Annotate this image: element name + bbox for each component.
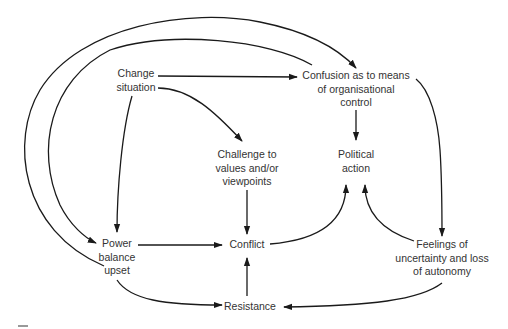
node-text: action bbox=[334, 162, 378, 176]
node-text: balance bbox=[97, 251, 137, 265]
node-political-action: Political action bbox=[334, 148, 378, 175]
edge-conflict-to-political bbox=[270, 185, 346, 244]
node-feelings: Feelings of uncertainty and loss of auto… bbox=[392, 238, 492, 279]
node-text: upset bbox=[97, 264, 137, 278]
node-text: Challenge to bbox=[212, 148, 282, 162]
node-conflict: Conflict bbox=[224, 238, 270, 252]
edge-confusion-to-feelings bbox=[416, 79, 442, 236]
node-confusion: Confusion as to means of organisational … bbox=[300, 69, 412, 110]
node-text: values and/or bbox=[212, 162, 282, 176]
node-text: uncertainty and loss bbox=[392, 252, 492, 266]
edge-power-to-resistance bbox=[117, 280, 222, 305]
node-text: Confusion as to means bbox=[300, 69, 412, 83]
node-change-situation: Change situation bbox=[113, 67, 159, 94]
node-text: Conflict bbox=[224, 238, 270, 252]
edge-feelings-to-political bbox=[365, 185, 414, 241]
node-resistance: Resistance bbox=[220, 300, 280, 314]
edge-feelings-to-resistance bbox=[284, 283, 442, 307]
node-text: Change bbox=[113, 67, 159, 81]
edge-change-to-challenge bbox=[158, 88, 242, 141]
caption-fragment bbox=[18, 325, 28, 327]
diagram-canvas: Change situation Confusion as to means o… bbox=[0, 0, 508, 329]
node-text: Political bbox=[334, 148, 378, 162]
edge-confusion-to-power bbox=[48, 39, 312, 243]
edge-change-to-power bbox=[117, 96, 132, 232]
node-text: of organisational bbox=[300, 83, 412, 97]
node-text: Feelings of bbox=[392, 238, 492, 252]
node-power-balance-upset: Power balance upset bbox=[97, 237, 137, 278]
node-text: Resistance bbox=[220, 300, 280, 314]
edge-change-to-confusion bbox=[158, 76, 297, 77]
edge-power-to-confusion bbox=[25, 17, 356, 266]
node-text: control bbox=[300, 96, 412, 110]
node-challenge: Challenge to values and/or viewpoints bbox=[212, 148, 282, 189]
node-text: viewpoints bbox=[212, 175, 282, 189]
node-text: Power bbox=[97, 237, 137, 251]
node-text: situation bbox=[113, 81, 159, 95]
node-text: of autonomy bbox=[392, 265, 492, 279]
